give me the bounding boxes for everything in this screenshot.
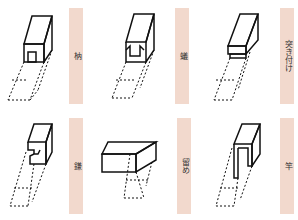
joint-tenon: 枘 — [0, 0, 99, 110]
label-bar: 竿 — [280, 118, 294, 214]
label-bar: 突き付け — [280, 8, 294, 104]
joint-label: 枘 — [72, 52, 80, 60]
joint-label: 留め — [180, 158, 188, 174]
joint-label: 鎌 — [72, 162, 80, 170]
label-bar: 留め — [177, 118, 191, 214]
label-bar: 鎌 — [69, 118, 83, 214]
joint-label: 突き付け — [283, 40, 291, 72]
gooseneck-joint-drawing — [0, 110, 99, 220]
tenon-joint-drawing — [0, 0, 99, 110]
label-bar: 枘 — [69, 8, 83, 104]
joint-label: 竿 — [283, 162, 291, 170]
label-bar: 蟻 — [175, 8, 189, 104]
joint-gooseneck: 鎌 — [0, 110, 99, 220]
joint-label: 蟻 — [178, 52, 186, 60]
joint-miter: 留め — [100, 110, 199, 220]
joint-butt: 突き付け — [198, 0, 297, 110]
joint-rod: 竿 — [198, 110, 297, 220]
joint-dovetail: 蟻 — [100, 0, 199, 110]
